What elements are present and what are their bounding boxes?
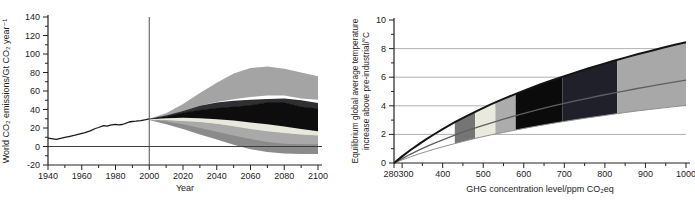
temperature-plot: 28030040050060070080090010000246810	[376, 15, 695, 179]
x-tick-label: 300	[399, 169, 414, 179]
y-tick-label: 120	[25, 31, 40, 41]
x-tick-label: 2020	[173, 171, 193, 181]
emissions-plot: 194019601980200020202040206020802100-200…	[25, 12, 328, 181]
y-tick-label: 80	[30, 68, 40, 78]
x-tick-label: 900	[638, 169, 653, 179]
x-tick-label: 2100	[308, 171, 328, 181]
x-tick-label: 1980	[105, 171, 125, 181]
temperature-y-axis-title-line2: increase above pre-industrial/°C	[361, 32, 371, 150]
x-tick-label: 500	[476, 169, 491, 179]
y-tick-label: 100	[25, 49, 40, 59]
y-tick-label: 6	[381, 72, 386, 82]
x-tick-label: 1940	[38, 171, 58, 181]
emissions-x-axis-title: Year	[176, 183, 194, 193]
y-tick-label: 140	[25, 12, 40, 22]
y-tick-label: 20	[30, 123, 40, 133]
temperature-x-axis-title: GHG concentration level/ppm CO₂eq	[466, 184, 614, 194]
emissions-y-axis-title: World CO₂ emissions/Gt CO₂ year⁻¹	[1, 19, 11, 164]
x-tick-label: 2060	[240, 171, 260, 181]
y-tick-label: 10	[376, 15, 386, 25]
y-tick-label: -20	[27, 160, 40, 170]
x-tick-label: 700	[557, 169, 572, 179]
x-tick-label: 1000	[676, 169, 695, 179]
x-tick-label: 2000	[139, 171, 159, 181]
x-tick-label: 280	[383, 169, 398, 179]
x-tick-label: 2040	[207, 171, 227, 181]
x-tick-label: 2080	[274, 171, 294, 181]
y-tick-label: 2	[381, 129, 386, 139]
x-tick-label: 1960	[72, 171, 92, 181]
temperature-y-axis-title-line1: Equilibrium global average temperature	[350, 18, 360, 163]
emissions-chart-svg: 194019601980200020202040206020802100-200…	[0, 0, 348, 204]
x-tick-label: 600	[516, 169, 531, 179]
y-tick-label: 4	[381, 101, 386, 111]
band-category-III	[495, 94, 515, 134]
y-tick-label: 8	[381, 44, 386, 54]
x-tick-label: 800	[597, 169, 612, 179]
x-tick-label: 400	[435, 169, 450, 179]
historical-emissions-line	[48, 119, 149, 139]
band-category-V	[562, 60, 617, 122]
y-tick-label: 40	[30, 105, 40, 115]
temperature-chart-svg: 28030040050060070080090010000246810 Equi…	[348, 0, 695, 204]
figure-panel: 194019601980200020202040206020802100-200…	[0, 0, 695, 204]
y-tick-label: 0	[35, 142, 40, 152]
y-tick-label: 60	[30, 86, 40, 96]
band-category-VI	[617, 42, 686, 114]
y-tick-label: 0	[381, 158, 386, 168]
